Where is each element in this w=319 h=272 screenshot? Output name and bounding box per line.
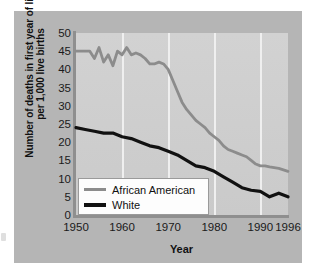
x-axis-line [73, 215, 289, 218]
legend-swatch-african-american [84, 188, 106, 192]
y-tick-10: 10 [51, 173, 71, 185]
x-tick-1980: 1980 [192, 221, 236, 233]
y-tick-40: 40 [51, 63, 71, 75]
x-tick-1996: 1996 [266, 221, 310, 233]
y-tick-25: 25 [51, 118, 71, 130]
y-tick-35: 35 [51, 82, 71, 94]
legend-label-african-american: African American [112, 184, 195, 196]
y-tick-5: 5 [51, 191, 71, 203]
y-tick-20: 20 [51, 136, 71, 148]
legend-item-white: White [84, 197, 203, 212]
y-axis-title: Number of deaths in first year of life p… [18, 0, 52, 164]
chart-legend: African American White [78, 178, 209, 215]
figure-root: Number of deaths in first year of life p… [0, 0, 319, 272]
series-line-african-american [76, 48, 288, 172]
x-tick-1960: 1960 [100, 221, 144, 233]
x-tick-1950: 1950 [54, 221, 98, 233]
legend-swatch-white [84, 203, 106, 207]
legend-label-white: White [112, 199, 140, 211]
y-tick-45: 45 [51, 45, 71, 57]
y-tick-30: 30 [51, 100, 71, 112]
legend-item-african-american: African American [84, 182, 203, 197]
y-tick-50: 50 [51, 27, 71, 39]
y-tick-15: 15 [51, 154, 71, 166]
x-tick-1970: 1970 [146, 221, 190, 233]
y-tick-0: 0 [51, 209, 71, 221]
x-axis-title: Year [74, 243, 289, 255]
page-edge-artifact [1, 233, 6, 241]
